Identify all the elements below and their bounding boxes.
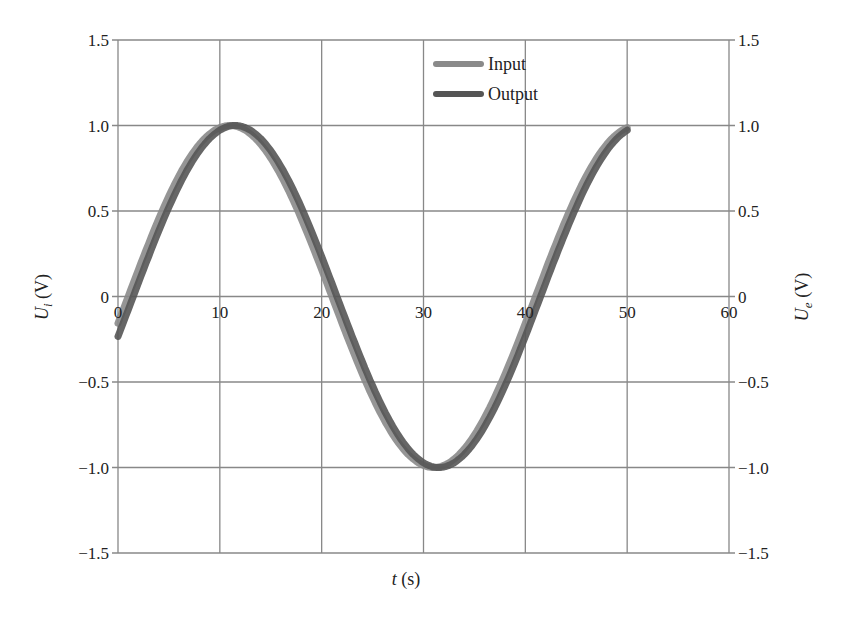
y-tick-label-right: 1.5	[738, 31, 759, 50]
legend-output-label: Output	[488, 84, 538, 104]
x-tick-label: 20	[313, 303, 330, 322]
y-tick-label-right: 0.5	[738, 202, 759, 221]
y-tick-label-left: 1.5	[88, 31, 109, 50]
x-tick-label: 60	[721, 303, 738, 322]
y-tick-label-left: −1.5	[78, 544, 109, 563]
chart: 01020304050601.51.51.01.00.50.500−0.5−0.…	[0, 0, 846, 622]
y-tick-label-left: 1.0	[88, 117, 109, 136]
legend: Input Output	[436, 54, 538, 104]
x-tick-label: 40	[517, 303, 534, 322]
x-axis-label: t (s)	[392, 569, 421, 590]
y-tick-label-right: −0.5	[738, 373, 769, 392]
y-tick-label-left: −1.0	[78, 459, 109, 478]
x-tick-label: 0	[114, 303, 123, 322]
x-tick-label: 50	[619, 303, 636, 322]
x-tick-label: 30	[415, 303, 432, 322]
y-tick-label-right: 0	[738, 288, 747, 307]
x-tick-label: 10	[211, 303, 228, 322]
y-tick-label-right: 1.0	[738, 117, 759, 136]
y-tick-label-left: −0.5	[78, 373, 109, 392]
grid	[112, 40, 735, 553]
y-tick-label-left: 0	[101, 288, 110, 307]
y-tick-label-right: −1.0	[738, 459, 769, 478]
y-axis-label-left: Ui (V)	[32, 274, 55, 320]
y-axis-label-right: Ue (V)	[792, 273, 815, 321]
y-tick-label-right: −1.5	[738, 544, 769, 563]
legend-input-label: Input	[488, 54, 526, 74]
y-tick-label-left: 0.5	[88, 202, 109, 221]
